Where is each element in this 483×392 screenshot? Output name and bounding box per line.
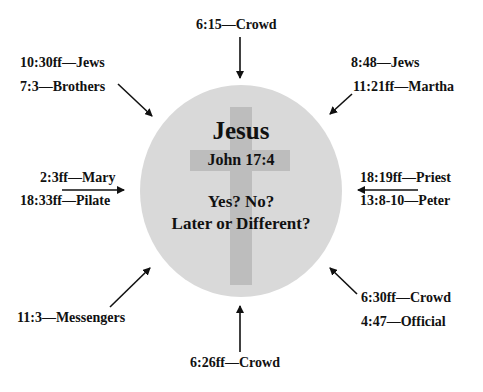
label-bottom-right-1: 6:30ff—Crowd (361, 290, 451, 306)
label-bottom-left: 11:3—Messengers (17, 310, 125, 326)
arrow-top-left (118, 84, 152, 116)
arrow-bottom-right (330, 268, 357, 294)
label-bottom-right-2: 4:47—Official (361, 314, 446, 330)
label-top-right-2: 11:21ff—Martha (353, 79, 454, 95)
label-top-right-1: 8:48—Jews (351, 55, 419, 71)
label-right-2: 13:8-10—Peter (360, 193, 450, 209)
arrow-bottom-left (110, 268, 150, 307)
label-top: 6:15—Crowd (196, 17, 277, 33)
label-left-1: 2:3ff—Mary (40, 170, 115, 186)
label-top-left-1: 10:30ff—Jews (20, 55, 105, 71)
arrow-top-right (330, 94, 352, 114)
label-right-1: 18:19ff—Priest (360, 170, 451, 186)
label-left-2: 18:33ff—Pilate (20, 193, 110, 209)
label-top-left-2: 7:3—Brothers (20, 79, 105, 95)
diagram: Jesus John 17:4 Yes? No? Later or Differ… (0, 0, 483, 392)
label-bottom: 6:26ff—Crowd (190, 355, 280, 371)
